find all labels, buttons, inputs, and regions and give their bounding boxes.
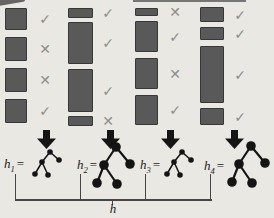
hypothesis-label-3: h3= (140, 157, 160, 175)
check-icon: ✓ (228, 107, 252, 127)
check-icon: ✓ (228, 65, 252, 85)
sequence-block (200, 108, 224, 125)
sequence-block (68, 22, 93, 64)
cross-icon: ✕ (33, 39, 57, 59)
sequence-block (68, 69, 93, 112)
check-icon: ✓ (96, 3, 120, 23)
sequence-block (200, 27, 224, 40)
figure-canvas: ✓✕✕✓h1=✓✓✓✕h2=✕✓✕✓h3=✓✓✓✓h4= h (0, 0, 274, 218)
tree-h2 (92, 141, 140, 189)
sequence-block (68, 116, 93, 126)
down-arrow-icon (160, 130, 181, 149)
down-arrow-icon (36, 130, 57, 149)
bracket-vertical-line (145, 174, 146, 200)
hypothesis-label-4: h4= (204, 158, 224, 176)
sequence-block (5, 68, 27, 92)
check-icon: ✓ (228, 5, 252, 25)
cross-icon: ✕ (33, 70, 57, 90)
equals-sign: = (215, 158, 224, 173)
check-icon: ✓ (163, 27, 187, 47)
check-icon: ✓ (33, 9, 57, 29)
sequence-block (200, 7, 224, 22)
check-icon: ✓ (96, 33, 120, 53)
check-icon: ✓ (228, 24, 252, 44)
sequence-block (68, 8, 93, 18)
tree-h4 (227, 140, 274, 188)
equals-sign: = (15, 156, 24, 171)
sequence-block (135, 95, 158, 125)
sequence-block (135, 21, 158, 52)
hypothesis-column-2: ✓✓✓✕ (68, 6, 124, 128)
bracket-vertical-line (80, 174, 81, 200)
scan-line-artifact (133, 0, 246, 2)
equals-sign: = (151, 157, 160, 172)
sequence-block (135, 58, 158, 89)
cross-icon: ✕ (96, 111, 120, 131)
hypothesis-column-4: ✓✓✓✓ (200, 6, 256, 128)
tree-h1 (32, 148, 68, 178)
sequence-block (5, 8, 27, 30)
check-icon: ✓ (96, 81, 120, 101)
hypothesis-label-1: h1= (4, 156, 24, 174)
bracket-vertical-line (15, 174, 16, 200)
sequence-block (135, 8, 158, 16)
combined-hypothesis-label: h (106, 201, 120, 217)
sequence-block (200, 46, 224, 103)
sequence-block (5, 37, 27, 61)
hypothesis-column-1: ✓✕✕✓ (5, 6, 61, 128)
check-icon: ✓ (163, 100, 187, 120)
hypothesis-column-3: ✕✓✕✓ (135, 6, 191, 128)
cross-icon: ✕ (163, 2, 187, 22)
check-icon: ✓ (33, 101, 57, 121)
tree-h3 (164, 148, 200, 178)
bracket-vertical-line (210, 174, 211, 200)
cross-icon: ✕ (163, 64, 187, 84)
sequence-block (5, 99, 27, 123)
